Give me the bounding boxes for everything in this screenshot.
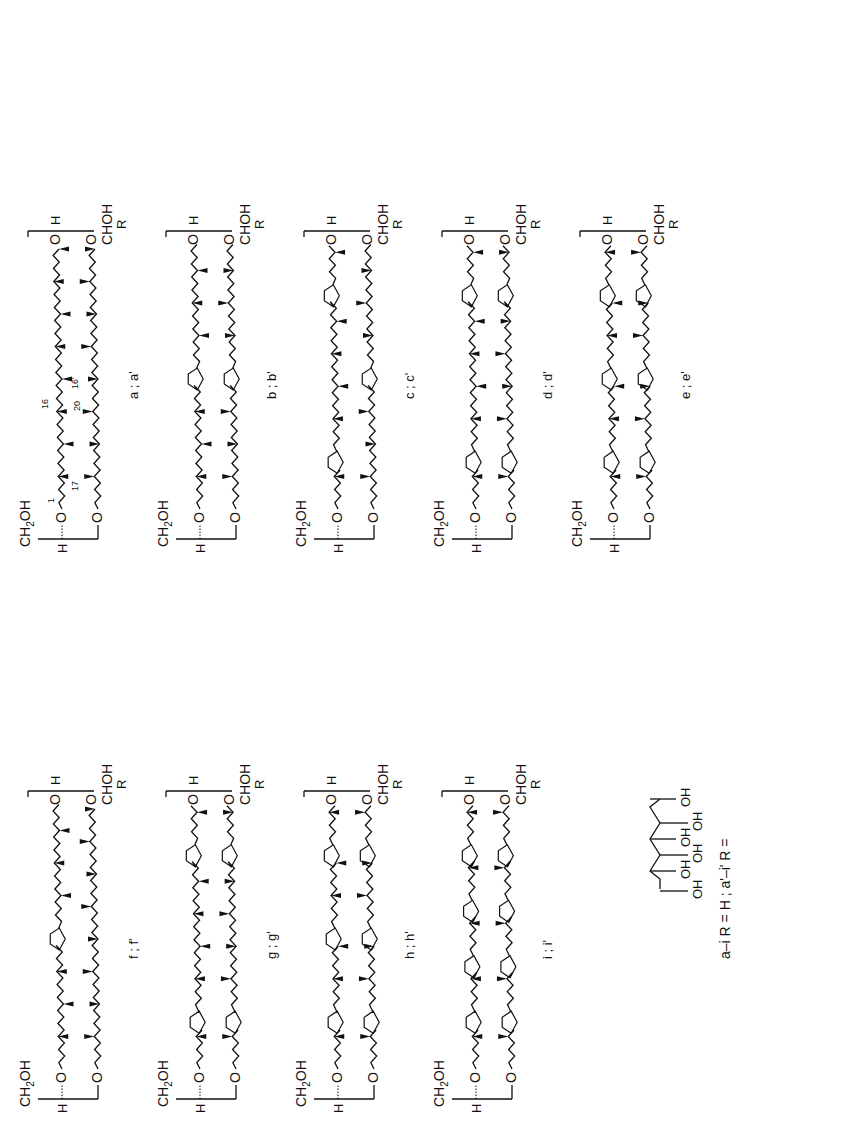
methyl-wedge-icon	[356, 301, 366, 306]
hydrogen-label: H	[48, 776, 63, 785]
oxygen-label: O	[185, 794, 201, 805]
cyclopentane-ring-icon	[326, 928, 341, 950]
chohr-label: CHOH	[237, 204, 253, 245]
cyclopentane-ring-icon	[462, 845, 477, 867]
oxygen-label: O	[323, 234, 339, 245]
oxygen-label: O	[461, 794, 477, 805]
methyl-wedge-icon	[221, 976, 231, 981]
methyl-wedge-icon	[360, 474, 370, 479]
hydrogen-label: H	[600, 216, 615, 225]
methyl-wedge-icon	[81, 904, 91, 909]
ch2oh-label: CH2OH	[17, 1060, 36, 1107]
atom-number-16-prime: 16'	[70, 377, 80, 389]
ch2oh-label: CH2OH	[293, 1060, 312, 1107]
oxygen-label: O	[191, 512, 207, 523]
hydrogen-label: H	[462, 216, 477, 225]
cyclopentane-ring-icon	[190, 1011, 205, 1033]
oxygen-label: O	[323, 794, 339, 805]
r-group-label: R	[528, 220, 543, 229]
methyl-wedge-icon	[355, 810, 365, 815]
oxygen-label: O	[365, 512, 381, 523]
r-group-label: R	[390, 780, 405, 789]
methyl-wedge-icon	[197, 810, 207, 815]
atom-number-17: 17	[70, 481, 80, 491]
hydrogen-label: H	[469, 544, 484, 553]
methyl-wedge-icon	[493, 810, 503, 815]
methyl-wedge-icon	[338, 384, 348, 389]
structure-f: CH2OHHOOOOHCHOHRf ; f'	[17, 764, 141, 1113]
oxygen-label: O	[47, 794, 63, 805]
structure-a: CH2OHHOOOOHCHOHRa ; a'117201616'	[17, 204, 141, 553]
methyl-wedge-icon	[199, 333, 209, 338]
structure-h: CH2OHHOOOOHCHOHRh ; h'	[293, 764, 417, 1113]
oxygen-label: O	[83, 234, 99, 245]
methyl-wedge-icon	[222, 1034, 232, 1039]
atom-number-16: 16	[40, 399, 50, 409]
structure-label-c: c ; c'	[402, 373, 417, 399]
chohr-label: CHOH	[237, 764, 253, 805]
r-group-label: R	[114, 780, 129, 789]
structure-label-a: a ; a'	[126, 371, 141, 399]
atom-number-1: 1	[46, 498, 56, 503]
oxygen-label: O	[359, 794, 375, 805]
oxygen-label: O	[365, 1072, 381, 1083]
structure-label-i: i ; i'	[540, 940, 555, 959]
hydrogen-label: H	[324, 776, 339, 785]
methyl-wedge-icon	[612, 301, 622, 306]
hydroxyl-label: OH	[690, 880, 705, 900]
oxygen-label: O	[497, 234, 513, 245]
structure-i: CH2OHHOOOOHCHOHRi ; i'	[431, 764, 555, 1113]
r-group-label: R	[252, 220, 267, 229]
chohr-label: CHOH	[513, 764, 529, 805]
methyl-wedge-icon	[218, 301, 228, 306]
figure-canvas: CH2OHHOOOOHCHOHRa ; a'117201616'CH2OHHOO…	[0, 0, 842, 1129]
methyl-wedge-icon	[84, 1034, 94, 1039]
ch2oh-label: CH2OH	[155, 500, 174, 547]
r-group-label: R	[528, 780, 543, 789]
legend-text: a–i R = H ; a'–i' R =	[717, 838, 733, 959]
structure-label-f: f ; f'	[126, 938, 141, 959]
oxygen-label: O	[227, 1072, 243, 1083]
methyl-wedge-icon	[635, 416, 645, 421]
oxygen-label: O	[89, 1072, 105, 1083]
hydrogen-label: H	[55, 1104, 70, 1113]
hydrogen-label: H	[331, 1104, 346, 1113]
methyl-wedge-icon	[614, 384, 624, 389]
oxygen-label: O	[461, 234, 477, 245]
oxygen-label: O	[227, 512, 243, 523]
hydrogen-label: H	[186, 216, 201, 225]
cyclopentane-ring-icon	[328, 1011, 343, 1033]
methyl-wedge-icon	[337, 319, 347, 324]
methyl-wedge-icon	[222, 474, 232, 479]
methyl-wedge-icon	[497, 416, 507, 421]
structure-d: CH2OHHOOOOHCHOHRd ; d'	[431, 204, 555, 553]
r-group-skeleton	[650, 799, 660, 889]
chohr-label: CHOH	[375, 204, 391, 245]
ch2oh-label: CH2OH	[155, 1060, 174, 1107]
structure-label-d: d ; d'	[540, 371, 555, 399]
methyl-wedge-icon	[199, 879, 209, 884]
hydrogen-label: H	[48, 216, 63, 225]
chohr-label: CHOH	[99, 764, 115, 805]
cyclopentane-ring-icon	[465, 956, 480, 978]
cyclopentane-ring-icon	[324, 845, 339, 867]
ch2oh-label: CH2OH	[569, 500, 588, 547]
cyclopentane-ring-icon	[364, 1011, 379, 1033]
hydrogen-label: H	[186, 776, 201, 785]
cyclopentane-ring-icon	[500, 900, 515, 922]
methyl-wedge-icon	[633, 333, 643, 338]
methyl-wedge-icon	[360, 1034, 370, 1039]
methyl-wedge-icon	[498, 1034, 508, 1039]
cyclopentane-ring-icon	[502, 1011, 517, 1033]
methyl-wedge-icon	[83, 409, 93, 414]
hydrogen-label: H	[331, 544, 346, 553]
methyl-wedge-icon	[359, 976, 369, 981]
methyl-wedge-icon	[61, 893, 71, 898]
r-group-label: R	[114, 220, 129, 229]
atom-number-20: 20	[72, 401, 82, 411]
oxygen-label: O	[359, 234, 375, 245]
methyl-wedge-icon	[64, 442, 74, 447]
cyclopentane-ring-icon	[604, 451, 619, 473]
hydrogen-label: H	[193, 1104, 208, 1113]
cyclopentane-ring-icon	[502, 451, 517, 473]
